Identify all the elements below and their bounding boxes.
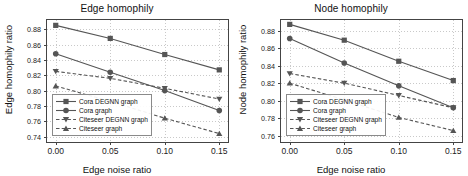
x-tick-mark (110, 142, 111, 145)
plot-area: 0.880.860.840.820.800.780.760.740.000.05… (46, 19, 229, 143)
legend-marker-icon (289, 97, 311, 106)
legend-item[interactable]: Citeseer graph (55, 124, 148, 133)
legend-item-label: Cora graph (77, 107, 112, 114)
data-point-marker (396, 59, 401, 64)
x-tick-mark (56, 142, 57, 145)
legend-item[interactable]: Citeseer DEGNN graph (55, 115, 148, 124)
legend-marker-icon (55, 124, 77, 133)
data-point-marker (53, 23, 58, 28)
y-tick-label: 0.78 (249, 114, 275, 123)
y-axis-label: Edge homophily ratio (2, 0, 16, 138)
legend-item-label: Citeseer graph (77, 125, 122, 132)
y-tick-label: 0.82 (15, 71, 41, 80)
legend-item[interactable]: Cora DEGNN graph (55, 97, 148, 106)
data-point-marker (287, 80, 293, 85)
legend-item-label: Citeseer graph (311, 125, 356, 132)
y-tick-label: 0.84 (249, 61, 275, 70)
data-point-marker (396, 115, 402, 120)
data-point-marker (162, 52, 167, 57)
legend-item-label: Citeseer DEGNN graph (77, 116, 148, 123)
data-point-marker (297, 99, 302, 104)
x-tick-mark (219, 142, 220, 145)
y-tick-label: 0.80 (15, 86, 41, 95)
legend-item[interactable]: Citeseer graph (289, 124, 382, 133)
legend-marker-icon (289, 106, 311, 115)
x-tick-mark (453, 142, 454, 145)
x-tick-mark (165, 142, 166, 145)
data-point-marker (396, 83, 402, 89)
legend-item-label: Citeseer DEGNN graph (311, 116, 382, 123)
x-axis-label: Edge noise ratio (0, 164, 234, 175)
data-point-marker (63, 108, 69, 114)
y-tick-label: 0.86 (15, 40, 41, 49)
data-point-marker (297, 108, 303, 114)
y-axis-label-text: Edge homophily ratio (4, 24, 15, 113)
series-line (56, 25, 220, 70)
y-axis-label-text: Node homophily ratio (238, 24, 249, 114)
legend-marker-icon (289, 124, 311, 133)
data-point-marker (53, 51, 59, 57)
x-tick-label: 0.05 (95, 146, 125, 156)
x-tick-label: 0.10 (150, 146, 180, 156)
data-point-marker (108, 36, 113, 41)
y-tick-label: 0.88 (249, 26, 275, 35)
legend-marker-icon (55, 106, 77, 115)
data-point-marker (287, 36, 293, 42)
plot-area: 0.880.860.840.820.800.780.760.000.050.10… (280, 19, 463, 143)
data-point-marker (217, 67, 222, 72)
y-tick-label: 0.84 (15, 55, 41, 64)
figure-two-panel-line-charts: Edge homophily Edge homophily ratio 0.88… (0, 0, 468, 176)
x-tick-label: 0.00 (275, 146, 305, 156)
legend[interactable]: Cora DEGNN graphCora graphCiteseer DEGNN… (52, 94, 152, 136)
data-point-marker (287, 22, 292, 27)
x-tick-mark (290, 142, 291, 145)
data-point-marker (342, 38, 347, 43)
legend-item[interactable]: Cora DEGNN graph (289, 97, 382, 106)
panel-edge-homophily: Edge homophily Edge homophily ratio 0.88… (0, 0, 234, 176)
x-tick-label: 0.15 (204, 146, 234, 156)
y-tick-label: 0.86 (249, 44, 275, 53)
data-point-marker (216, 108, 222, 114)
legend-item[interactable]: Citeseer DEGNN graph (289, 115, 382, 124)
y-tick-label: 0.74 (15, 132, 41, 141)
data-point-marker (396, 93, 402, 98)
legend-marker-icon (55, 115, 77, 124)
panel-title: Node homophily (234, 3, 468, 14)
y-tick-label: 0.80 (249, 96, 275, 105)
data-point-marker (63, 99, 68, 104)
legend-marker-icon (289, 115, 311, 124)
x-tick-mark (344, 142, 345, 145)
legend-item[interactable]: Cora graph (55, 106, 148, 115)
data-point-marker (341, 60, 347, 66)
data-point-marker (451, 78, 456, 83)
panel-node-homophily: Node homophily Node homophily ratio 0.88… (234, 0, 468, 176)
data-point-marker (216, 97, 222, 102)
legend-item-label: Cora DEGNN graph (77, 98, 138, 105)
legend-marker-icon (55, 97, 77, 106)
legend-item-label: Cora graph (311, 107, 346, 114)
x-tick-mark (399, 142, 400, 145)
x-tick-label: 0.10 (384, 146, 414, 156)
y-tick-label: 0.76 (15, 117, 41, 126)
y-tick-label: 0.82 (249, 79, 275, 88)
x-axis-label: Edge noise ratio (234, 164, 468, 175)
data-point-marker (107, 69, 113, 75)
x-tick-label: 0.00 (41, 146, 71, 156)
panel-title: Edge homophily (0, 3, 234, 14)
data-point-marker (53, 83, 59, 88)
y-axis-label: Node homophily ratio (236, 0, 250, 138)
x-tick-label: 0.05 (329, 146, 359, 156)
y-tick-label: 0.76 (249, 131, 275, 140)
y-tick-label: 0.78 (15, 101, 41, 110)
legend-item[interactable]: Cora graph (289, 106, 382, 115)
x-tick-label: 0.15 (438, 146, 468, 156)
series-line (290, 24, 454, 80)
y-tick-label: 0.88 (15, 25, 41, 34)
legend-item-label: Cora DEGNN graph (311, 98, 372, 105)
legend[interactable]: Cora DEGNN graphCora graphCiteseer DEGNN… (286, 94, 386, 136)
